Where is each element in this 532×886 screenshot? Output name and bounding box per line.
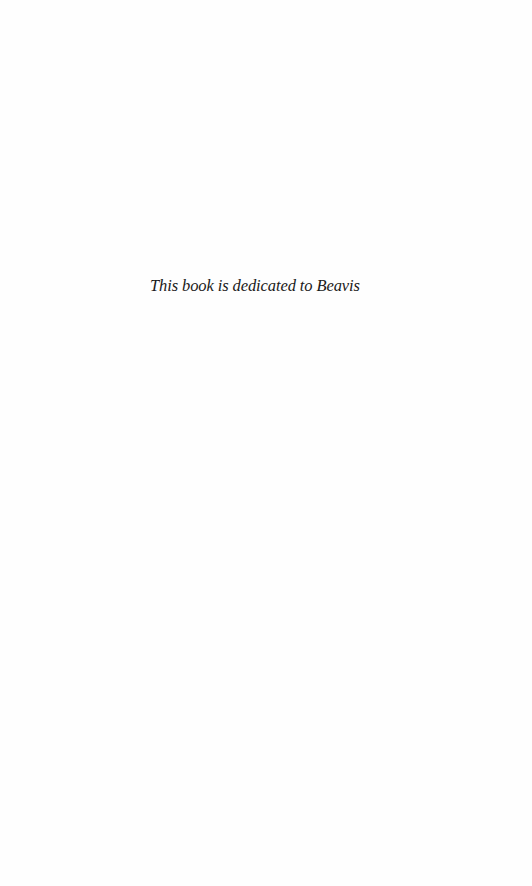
dedication-text: This book is dedicated to Beavis: [150, 276, 360, 296]
book-page: This book is dedicated to Beavis: [0, 0, 532, 886]
